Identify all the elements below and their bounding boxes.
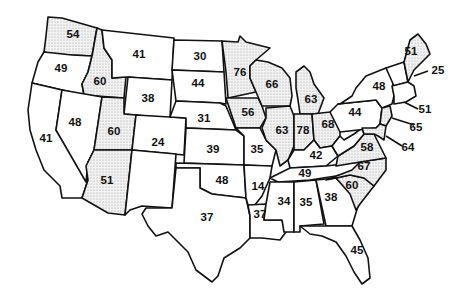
label-nh: 25 <box>432 65 445 77</box>
label-ne: 31 <box>198 113 211 125</box>
label-ny: 48 <box>373 81 386 93</box>
us-state-map <box>0 0 463 289</box>
label-ks: 39 <box>207 144 220 156</box>
state-nm <box>125 150 176 215</box>
label-mn: 76 <box>234 67 247 79</box>
label-al: 35 <box>300 197 313 209</box>
label-la: 37 <box>254 209 267 221</box>
label-ma: 51 <box>419 104 432 116</box>
label-or: 49 <box>55 63 68 75</box>
state-co <box>132 115 186 155</box>
label-md: 64 <box>402 142 415 154</box>
label-va: 58 <box>361 142 374 154</box>
label-wy: 38 <box>142 93 155 105</box>
label-nc: 67 <box>358 161 371 173</box>
label-me: 51 <box>405 46 418 58</box>
state-nj <box>380 106 392 126</box>
label-mo: 35 <box>251 144 264 156</box>
label-tx: 37 <box>201 212 214 224</box>
label-nd: 30 <box>194 51 207 63</box>
label-il: 63 <box>276 125 289 137</box>
label-co: 24 <box>152 137 165 149</box>
label-nv: 48 <box>69 117 82 129</box>
label-sd: 44 <box>192 78 205 90</box>
label-mi: 63 <box>305 94 318 106</box>
label-az: 51 <box>101 175 114 187</box>
leader-line-md <box>386 136 402 146</box>
leader-line-ma <box>404 102 418 109</box>
label-ky: 42 <box>310 150 323 162</box>
label-wi: 66 <box>266 79 279 91</box>
label-ok: 48 <box>216 175 229 187</box>
label-id: 60 <box>94 76 107 88</box>
label-mt: 41 <box>133 49 146 61</box>
label-tn: 49 <box>299 168 312 180</box>
label-ms: 34 <box>278 196 291 208</box>
label-wa: 54 <box>67 29 80 41</box>
state-mi <box>296 66 324 114</box>
leader-line-nh <box>414 71 428 76</box>
label-ar: 14 <box>252 181 265 193</box>
label-oh: 68 <box>322 119 335 131</box>
label-ut: 60 <box>108 126 121 138</box>
state-ma-ct-ri <box>392 82 416 104</box>
label-fl: 45 <box>351 245 364 257</box>
label-sc: 60 <box>346 180 359 192</box>
label-in: 78 <box>297 125 310 137</box>
label-ia: 56 <box>242 107 255 119</box>
label-ga: 38 <box>325 192 338 204</box>
label-ca: 41 <box>40 133 53 145</box>
label-nj: 65 <box>410 122 423 134</box>
label-pa: 44 <box>349 107 362 119</box>
